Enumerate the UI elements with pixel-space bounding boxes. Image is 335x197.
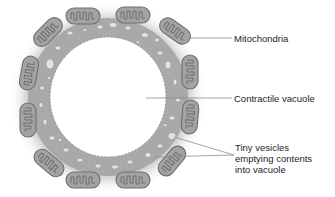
label-tiny-vesicles: Tiny vesicles emptying contents into vac… — [235, 142, 312, 175]
mitochondrion — [66, 8, 100, 24]
label-line: emptying contents — [235, 153, 312, 164]
mitochondrion — [116, 172, 150, 188]
label-line: Tiny vesicles — [235, 142, 312, 153]
mitochondrion — [181, 99, 200, 134]
label-contractile-vacuole: Contractile vacuole — [234, 93, 315, 104]
mitochondrion — [116, 7, 150, 23]
label-line: into vacuole — [235, 164, 312, 175]
mitochondrion — [20, 103, 36, 137]
label-mitochondria: Mitochondria — [234, 33, 288, 44]
mitochondrion — [66, 172, 100, 188]
mitochondrion — [182, 55, 198, 89]
contractile-vacuole — [50, 37, 166, 157]
